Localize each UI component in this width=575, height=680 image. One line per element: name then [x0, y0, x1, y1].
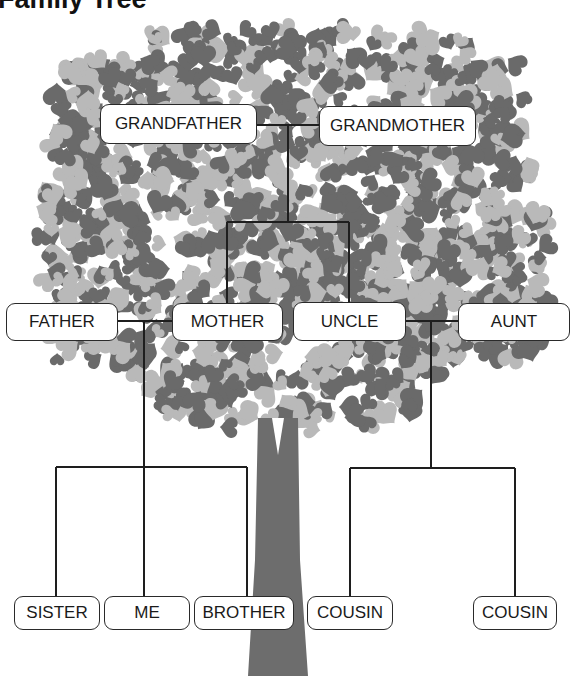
- node-aunt[interactable]: AUNT: [458, 303, 570, 341]
- tree-crown-leaves: [28, 15, 561, 443]
- node-grandfather[interactable]: GRANDFATHER: [100, 104, 257, 144]
- node-label: UNCLE: [321, 312, 379, 332]
- node-label: COUSIN: [482, 603, 548, 623]
- node-label: GRANDMOTHER: [330, 116, 465, 136]
- node-label: SISTER: [26, 603, 87, 623]
- node-cousin-1[interactable]: COUSIN: [307, 596, 393, 630]
- tree-trunk: [248, 418, 308, 676]
- node-label: ME: [134, 603, 160, 623]
- node-brother[interactable]: BROTHER: [194, 596, 294, 630]
- node-cousin-2[interactable]: COUSIN: [473, 596, 557, 630]
- node-mother[interactable]: MOTHER: [172, 303, 283, 341]
- node-me[interactable]: ME: [104, 596, 190, 630]
- node-uncle[interactable]: UNCLE: [293, 302, 406, 341]
- node-father[interactable]: FATHER: [6, 303, 118, 341]
- node-label: GRANDFATHER: [115, 114, 242, 134]
- node-label: COUSIN: [317, 603, 383, 623]
- node-label: AUNT: [491, 312, 537, 332]
- node-sister[interactable]: SISTER: [14, 596, 100, 630]
- node-label: FATHER: [29, 312, 95, 332]
- node-grandmother[interactable]: GRANDMOTHER: [319, 106, 476, 146]
- node-label: MOTHER: [191, 312, 265, 332]
- node-label: BROTHER: [202, 603, 285, 623]
